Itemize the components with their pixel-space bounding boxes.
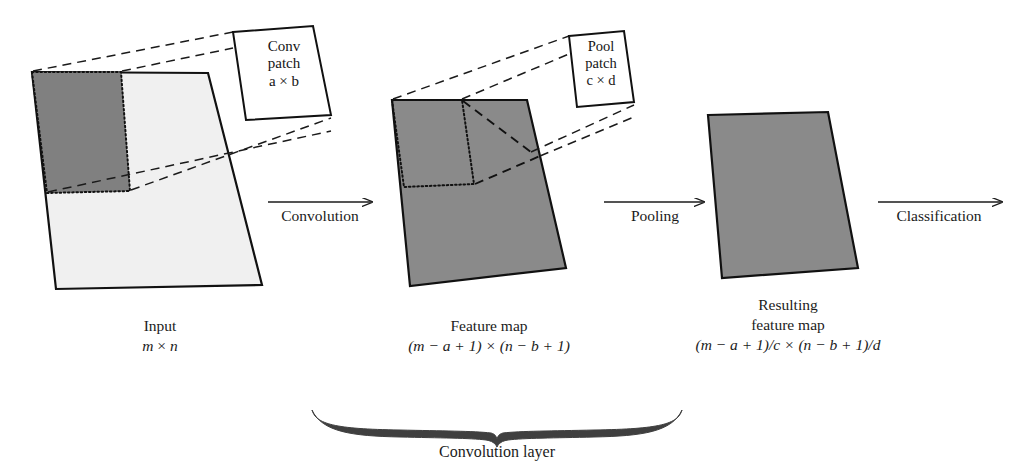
input-caption-line2: m × n xyxy=(85,336,235,356)
pool-patch-line1: Pool xyxy=(570,38,632,55)
resulting-caption-line2: feature map xyxy=(660,315,916,335)
diagram-canvas xyxy=(0,0,1016,474)
convolution-layer-brace-shape xyxy=(312,410,682,447)
convolution-layer-label: Convolution layer xyxy=(377,443,617,461)
input-caption: Input m × n xyxy=(85,316,235,356)
feature-map-caption: Feature map (m − a + 1) × (n − b + 1) xyxy=(378,316,600,356)
feature-map-caption-line1: Feature map xyxy=(378,316,600,336)
conv-patch-text: Conv patch a × b xyxy=(238,38,330,90)
input-shape-group xyxy=(32,72,262,289)
resulting-caption-line3: (m − a + 1)/c × (n − b + 1)/d xyxy=(660,335,916,355)
classification-arrow-label: Classification xyxy=(872,207,1006,225)
cnn-pipeline-diagram: Conv patch a × b Pool patch c × d Convol… xyxy=(0,0,1016,474)
conv-patch-line3: a × b xyxy=(238,73,330,90)
input-dim-m: m xyxy=(142,337,153,354)
pool-patch-dim-sep: × xyxy=(593,72,608,88)
input-caption-line1: Input xyxy=(85,316,235,336)
conv-patch-line2: patch xyxy=(238,55,330,72)
input-conv-patch-region xyxy=(32,72,130,193)
feature-map-body xyxy=(392,100,566,286)
pooling-arrow-label: Pooling xyxy=(600,207,710,225)
conv-patch-dim-sep: × xyxy=(276,73,292,89)
pool-patch-dim-d: d xyxy=(608,72,615,88)
input-dim-sep: × xyxy=(153,337,170,354)
conv-patch-dim-b: b xyxy=(292,73,300,89)
resulting-feature-map-caption: Resulting feature map (m − a + 1)/c × (n… xyxy=(660,295,916,355)
conv-patch-dim-a: a xyxy=(269,73,276,89)
pool-patch-line3: c × d xyxy=(570,72,632,89)
convolution-arrow-label: Convolution xyxy=(258,207,382,225)
input-dim-n: n xyxy=(170,337,178,354)
feature-map-shape-group xyxy=(392,100,566,286)
pool-patch-text: Pool patch c × d xyxy=(570,38,632,88)
feature-map-caption-line2: (m − a + 1) × (n − b + 1) xyxy=(378,336,600,356)
pool-patch-line2: patch xyxy=(570,55,632,72)
conv-patch-line1: Conv xyxy=(238,38,330,55)
resulting-feature-map-body xyxy=(708,112,858,278)
resulting-caption-line1: Resulting xyxy=(660,295,916,315)
